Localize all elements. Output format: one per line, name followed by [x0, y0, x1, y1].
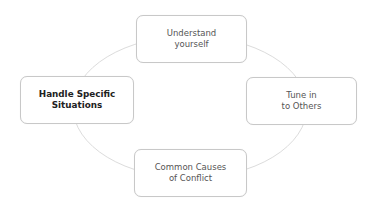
node-label-line1: Understand — [167, 28, 216, 39]
node-label-line2: to Others — [282, 101, 322, 112]
node-tune-in-to-others: Tune in to Others — [246, 77, 357, 125]
node-label-line2: of Conflict — [155, 173, 227, 184]
node-label-line1: Tune in — [282, 90, 322, 101]
node-label-line2: Situations — [39, 100, 115, 111]
node-label-line1: Common Causes — [155, 162, 227, 173]
node-label-line1: Handle Specific — [39, 89, 115, 100]
node-common-causes-of-conflict: Common Causes of Conflict — [134, 149, 247, 197]
node-handle-specific-situations: Handle Specific Situations — [20, 76, 134, 124]
node-understand-yourself: Understand yourself — [136, 15, 247, 63]
node-label-line2: yourself — [167, 39, 216, 50]
